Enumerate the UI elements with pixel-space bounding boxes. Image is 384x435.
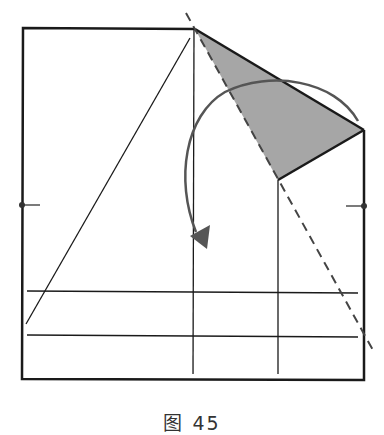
shaded-flap: [195, 29, 364, 180]
valley-fold-line: [186, 13, 374, 352]
vertical-crease-left: [193, 29, 194, 374]
horizontal-crease-upper: [27, 291, 358, 293]
left-marker-dot: [19, 202, 25, 208]
right-marker-dot: [361, 203, 367, 209]
diagonal-crease: [26, 38, 190, 324]
figure-caption: 图 45: [0, 408, 384, 435]
